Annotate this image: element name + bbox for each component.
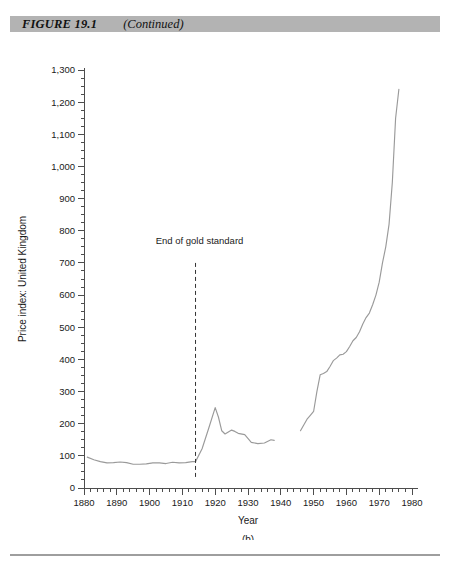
y-axis-tick-label: 100 (59, 450, 75, 461)
figure-number-label: FIGURE 19.1 (22, 17, 97, 32)
data-series-group (87, 89, 399, 464)
figure-header-bar: FIGURE 19.1 (Continued) (10, 16, 440, 32)
panel-label: (b) (242, 534, 254, 540)
x-axis-tick-label: 1880 (73, 497, 94, 508)
chart-container: 01002003004005006007008009001,0001,1001,… (0, 40, 456, 540)
annotation-group: End of gold standard (156, 235, 244, 479)
y-axis-tick-label: 600 (59, 289, 75, 300)
figure-continued-label: (Continued) (123, 17, 183, 32)
y-axis-tick-label: 900 (59, 193, 75, 204)
y-axis-tick-label: 1,000 (51, 161, 75, 172)
y-axis-tick-label: 1,200 (51, 97, 75, 108)
x-axis-tick-label: 1970 (369, 497, 390, 508)
x-axis-title: Year (238, 515, 259, 526)
y-axis-tick-label: 800 (59, 225, 75, 236)
y-axis-tick-label: 700 (59, 257, 75, 268)
y-axis-tick-label: 0 (70, 482, 75, 493)
x-axis-tick-label: 1960 (336, 497, 357, 508)
series-line-segment (300, 89, 398, 430)
y-axis: 01002003004005006007008009001,0001,1001,… (51, 64, 84, 493)
figure-root: FIGURE 19.1 (Continued) 0100200300400500… (0, 0, 456, 578)
series-line-segment (87, 408, 274, 465)
y-axis-title: Price index: United Kingdom (17, 216, 28, 342)
x-axis-tick-label: 1900 (139, 497, 160, 508)
y-axis-tick-label: 300 (59, 386, 75, 397)
x-axis-tick-label: 1950 (303, 497, 324, 508)
end-of-gold-standard-label: End of gold standard (156, 235, 244, 246)
axis-labels-group: YearPrice index: United Kingdom(b) (17, 216, 259, 540)
x-axis-tick-label: 1940 (270, 497, 291, 508)
y-axis-tick-label: 1,100 (51, 129, 75, 140)
x-axis-tick-label: 1890 (106, 497, 127, 508)
x-axis-tick-label: 1920 (205, 497, 226, 508)
y-axis-tick-label: 500 (59, 322, 75, 333)
price-index-line-chart: 01002003004005006007008009001,0001,1001,… (0, 40, 456, 540)
figure-footer-rule (10, 554, 440, 556)
y-axis-tick-label: 200 (59, 418, 75, 429)
x-axis-tick-label: 1910 (172, 497, 193, 508)
y-axis-tick-label: 1,300 (51, 64, 75, 75)
y-axis-tick-label: 400 (59, 354, 75, 365)
x-axis-tick-label: 1980 (401, 497, 422, 508)
x-axis-tick-label: 1930 (237, 497, 258, 508)
x-axis: 1880189019001910192019301940195019601970… (73, 488, 422, 508)
